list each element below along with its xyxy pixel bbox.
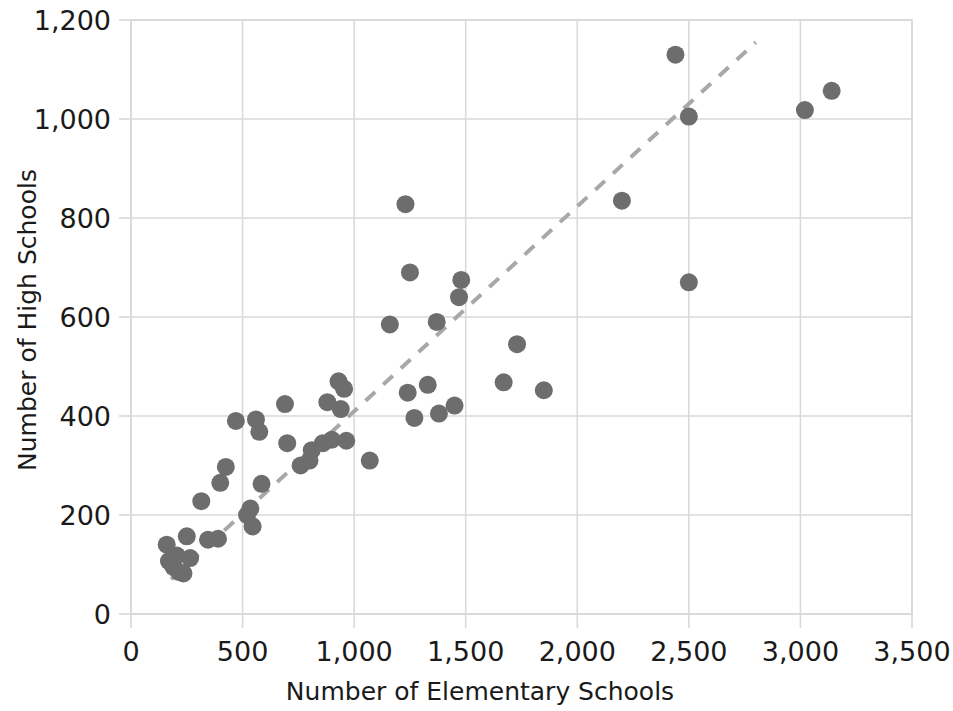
chart-canvas: 05001,0001,5002,0002,5003,0003,500 02004… [0, 0, 953, 711]
scatter-point [613, 192, 631, 210]
x-tick-label: 0 [122, 636, 139, 667]
x-tick-label: 2,500 [650, 636, 727, 667]
x-tick-label: 1,500 [427, 636, 504, 667]
x-axis-title: Number of Elementary Schools [286, 677, 674, 706]
y-tick-label: 400 [59, 401, 111, 432]
scatter-point [680, 273, 698, 291]
y-tick-label: 0 [94, 599, 111, 630]
scatter-point [174, 564, 192, 582]
scatter-chart-figure: 05001,0001,5002,0002,5003,0003,500 02004… [0, 0, 953, 711]
x-tick-label: 500 [217, 636, 269, 667]
scatter-point [241, 500, 259, 518]
scatter-point [680, 108, 698, 126]
scatter-point [332, 400, 350, 418]
scatter-point [419, 376, 437, 394]
x-tick-label: 2,000 [539, 636, 616, 667]
scatter-point [405, 409, 423, 427]
scatter-point [381, 315, 399, 333]
scatter-point [796, 101, 814, 119]
scatter-point [535, 381, 553, 399]
scatter-point [495, 373, 513, 391]
scatter-point [361, 452, 379, 470]
scatter-point [335, 380, 353, 398]
scatter-point [278, 434, 296, 452]
scatter-point [666, 46, 684, 64]
scatter-point [211, 474, 229, 492]
scatter-point [399, 384, 417, 402]
y-tick-label: 800 [59, 203, 111, 234]
y-tick-label: 1,000 [34, 104, 111, 135]
scatter-point [276, 395, 294, 413]
scatter-point [446, 397, 464, 415]
x-tick-label: 1,000 [315, 636, 392, 667]
scatter-point [178, 527, 196, 545]
scatter-point [244, 517, 262, 535]
x-tick-label: 3,000 [762, 636, 839, 667]
scatter-point [428, 313, 446, 331]
scatter-point [181, 549, 199, 567]
y-axis-title: Number of High Schools [13, 169, 42, 471]
scatter-point [253, 475, 271, 493]
scatter-point [227, 412, 245, 430]
y-tick-label: 600 [59, 302, 111, 333]
y-tick-label: 1,200 [34, 5, 111, 36]
scatter-point [337, 432, 355, 450]
scatter-point [452, 271, 470, 289]
scatter-point [192, 492, 210, 510]
scatter-point [823, 82, 841, 100]
scatter-point [401, 263, 419, 281]
y-tick-label: 200 [59, 500, 111, 531]
x-tick-label: 3,500 [873, 636, 950, 667]
scatter-point [250, 423, 268, 441]
scatter-point [508, 335, 526, 353]
scatter-point [396, 195, 414, 213]
scatter-point [450, 288, 468, 306]
scatter-point [209, 530, 227, 548]
scatter-point [430, 405, 448, 423]
scatter-point [217, 458, 235, 476]
